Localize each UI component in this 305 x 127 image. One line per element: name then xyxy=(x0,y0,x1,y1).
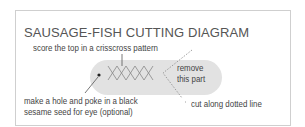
eye-annotation-line2: sesame seed for eye (optional) xyxy=(24,107,133,118)
cut-annotation: cut along dotted line xyxy=(191,99,262,110)
eye-annotation-line1: make a hole and poke in a black xyxy=(24,96,138,107)
crisscross-pattern xyxy=(108,66,153,80)
remove-annotation-line1: remove xyxy=(177,63,203,74)
remove-annotation-line2: this part xyxy=(177,74,205,85)
eye-dot xyxy=(97,73,100,76)
eye-leader-line xyxy=(85,77,98,93)
